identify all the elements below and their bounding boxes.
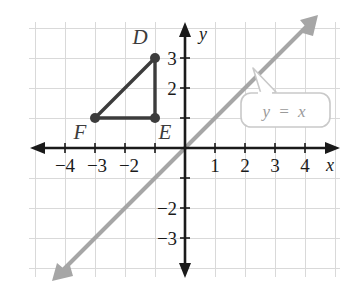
y-axis-arrow-down	[179, 263, 191, 278]
y-tick-label-3: 3	[167, 48, 177, 69]
y-tick-label-2: 2	[167, 78, 177, 99]
x-axis-arrow-right	[325, 142, 340, 154]
x-tick-label-2: 2	[240, 155, 250, 176]
y-tick-label-neg2: −2	[157, 198, 177, 219]
x-tick-label-1: 1	[210, 155, 220, 176]
x-tick-label-3: 3	[270, 155, 280, 176]
x-axis-arrow-left	[30, 142, 45, 154]
vertex-labels: D E F	[73, 25, 172, 144]
y-axis-arrow-up	[179, 22, 191, 37]
y-axis-label: y	[197, 24, 207, 44]
x-axis-label: x	[325, 155, 334, 175]
x-tick-label-neg2: −2	[119, 155, 139, 176]
vertex-point-d	[150, 53, 160, 63]
callout-equation-text: y = x	[260, 102, 307, 121]
vertex-label-e: E	[158, 120, 172, 144]
y-tick-label-neg3: −3	[157, 228, 177, 249]
x-tick-label-neg3: −3	[87, 155, 107, 176]
x-axis-labels: −4 −3 −2 1 2 3 4 x	[55, 155, 334, 176]
graph-canvas: y = x −4 −3 −2 1 2 3 4 x 3 2 −2 −3 y D E…	[0, 0, 359, 287]
axes	[30, 22, 340, 278]
vertex-label-d: D	[131, 25, 147, 49]
vertex-point-f	[90, 113, 100, 123]
vertex-label-f: F	[73, 120, 87, 144]
x-tick-label-4: 4	[300, 155, 310, 176]
x-tick-label-neg4: −4	[55, 155, 76, 176]
coordinate-plane-figure: y = x −4 −3 −2 1 2 3 4 x 3 2 −2 −3 y D E…	[0, 0, 359, 287]
